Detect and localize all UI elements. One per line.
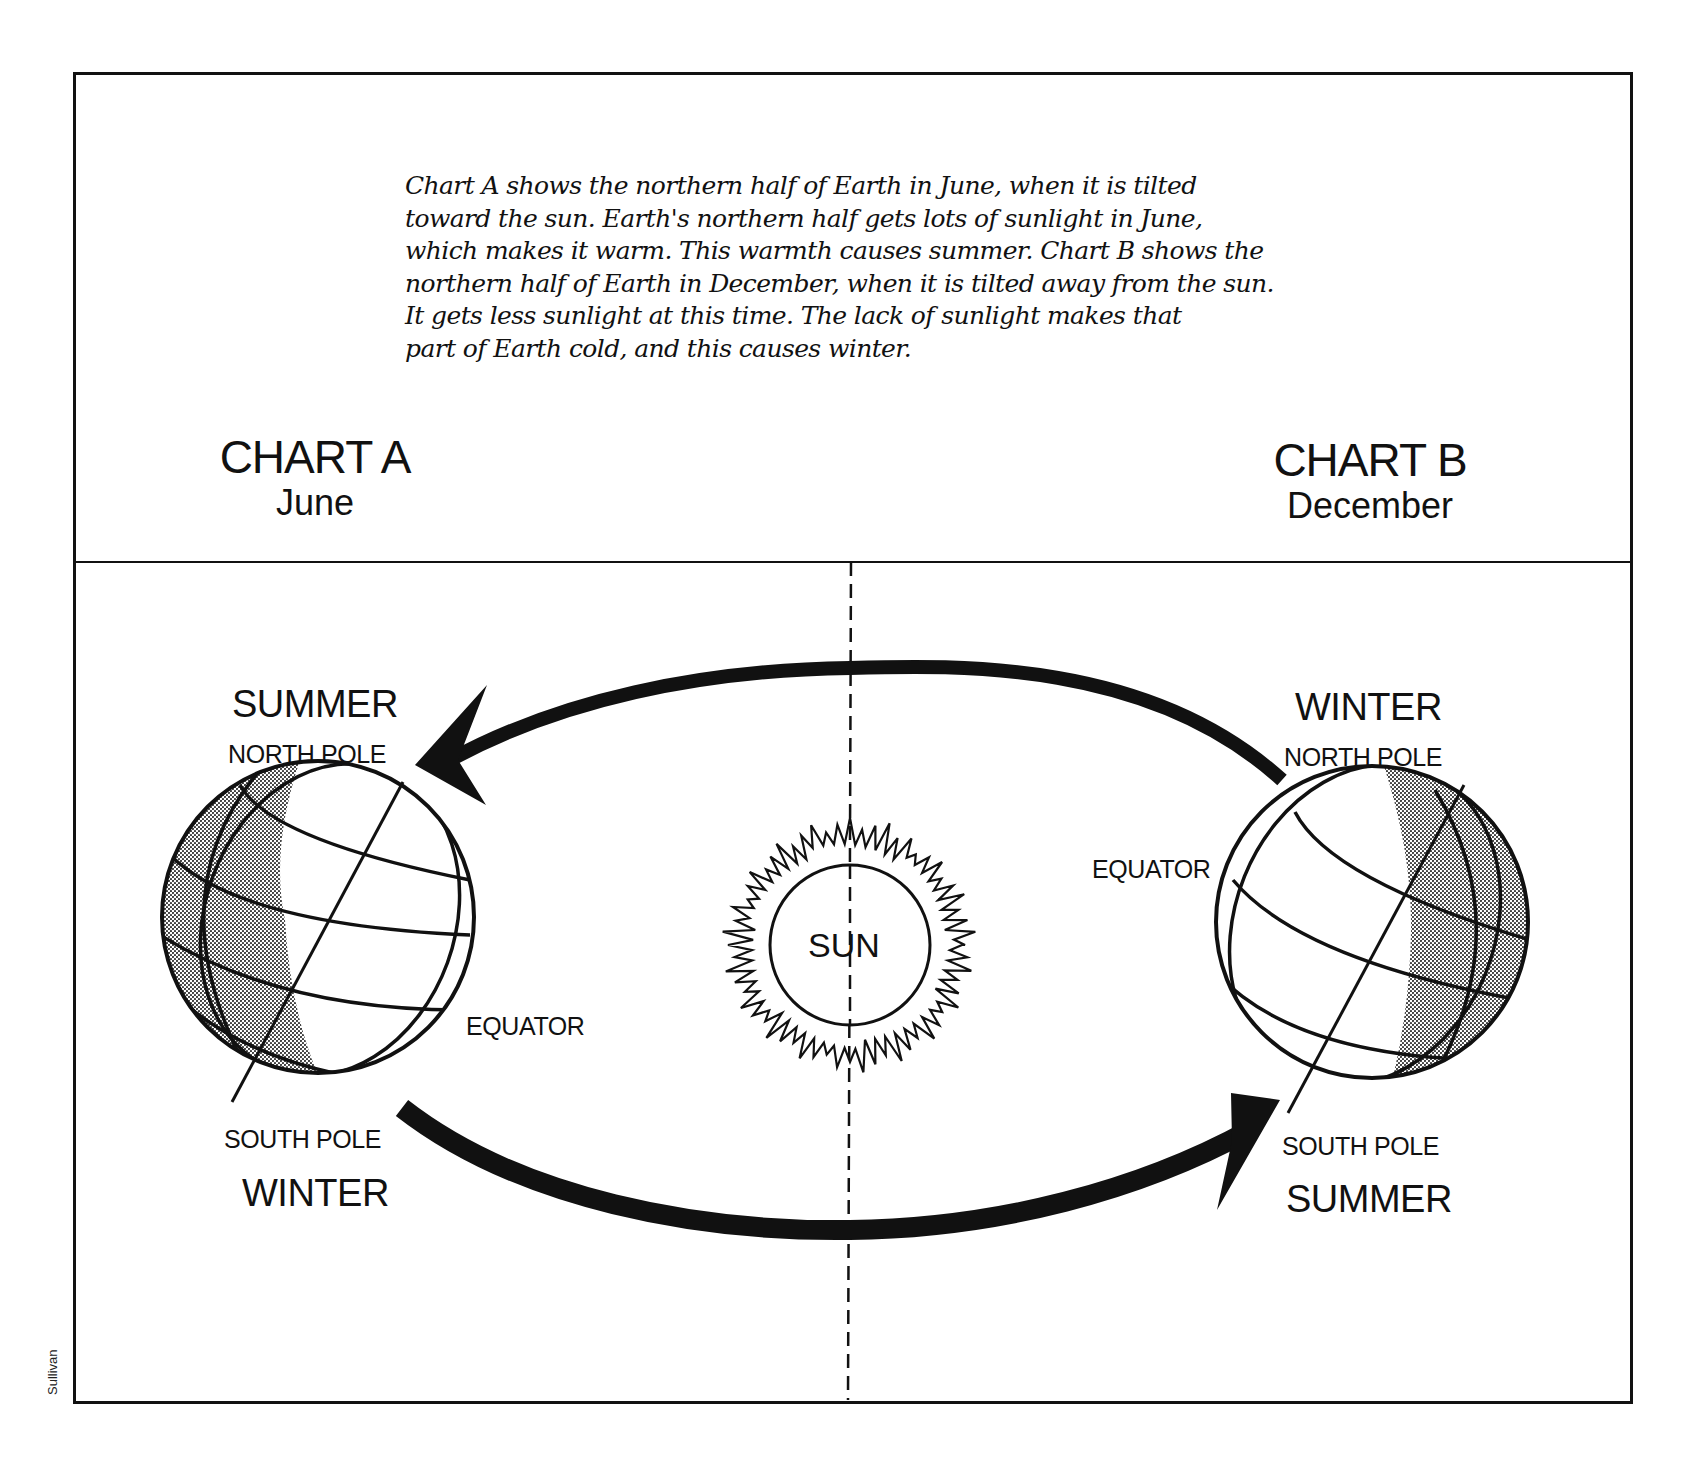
- sun-label: SUN: [808, 926, 880, 965]
- chart-a-summer-label: SUMMER: [232, 683, 398, 726]
- seasons-diagram: [0, 0, 1708, 1469]
- chart-a-equator-label: EQUATOR: [466, 1012, 585, 1041]
- chart-a-north-pole-label: NORTH POLE: [228, 740, 386, 769]
- chart-b-north-pole-label: NORTH POLE: [1284, 743, 1442, 772]
- chart-b-south-pole-label: SOUTH POLE: [1282, 1132, 1439, 1161]
- chart-a-winter-label: WINTER: [242, 1172, 389, 1215]
- chart-b-winter-label: WINTER: [1295, 686, 1442, 729]
- chart-b-summer-label: SUMMER: [1286, 1178, 1452, 1221]
- orbit-arrow-top-icon: [415, 667, 1282, 805]
- chart-b-equator-label: EQUATOR: [1092, 855, 1211, 884]
- orbit-arrow-bottom-icon: [402, 1093, 1280, 1230]
- artist-credit: Sullivan: [45, 1349, 60, 1395]
- earth-globe-december-icon: [1183, 723, 1548, 1126]
- chart-a-south-pole-label: SOUTH POLE: [224, 1125, 381, 1154]
- earth-globe-june-icon: [150, 727, 502, 1113]
